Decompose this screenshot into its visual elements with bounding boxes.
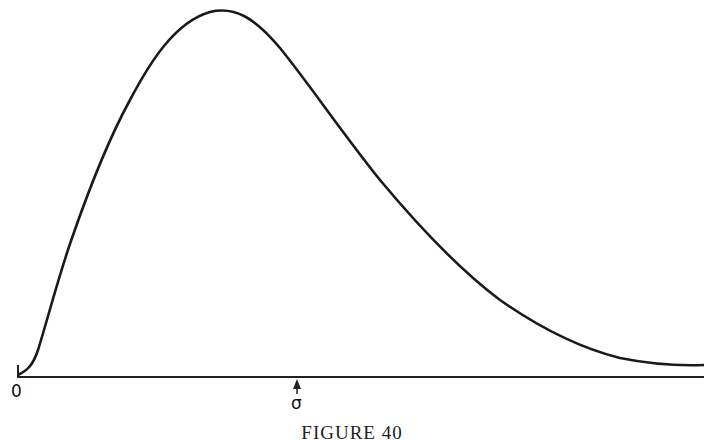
chart-canvas	[0, 0, 704, 440]
density-curve	[18, 11, 704, 376]
origin-label: 0	[11, 381, 22, 401]
figure-caption: FIGURE 40	[0, 422, 704, 440]
sigma-label: σ	[291, 393, 302, 413]
sigma-arrow-head-icon	[293, 379, 301, 389]
